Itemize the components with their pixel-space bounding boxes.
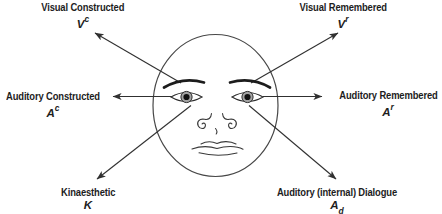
label-kinaesthetic-title: Kinaesthetic	[61, 186, 115, 198]
label-visual-constructed-title: Visual Constructed	[41, 1, 124, 13]
left-eye	[171, 91, 202, 102]
label-visual-constructed: Visual Constructed Vc	[33, 1, 133, 30]
label-auditory-constructed-abbr: Ac	[46, 103, 59, 119]
label-visual-constructed-abbr: Vc	[77, 14, 89, 30]
left-eyebrow	[164, 80, 204, 87]
arrow-kinaesthetic	[97, 106, 191, 180]
label-auditory-constructed: Auditory Constructed Ac	[0, 90, 106, 119]
eye-accessing-cues-diagram: Visual Constructed Vc Visual Remembered …	[0, 0, 442, 214]
arrow-visual-constructed	[95, 33, 181, 83]
right-eyebrow	[230, 80, 270, 87]
right-eye	[232, 91, 263, 102]
label-auditory-constructed-title: Auditory Constructed	[6, 90, 100, 102]
label-visual-remembered: Visual Remembered Vr	[291, 1, 395, 30]
label-auditory-dialogue-title: Auditory (internal) Dialogue	[277, 186, 397, 198]
arrow-auditory-dialogue	[249, 106, 336, 180]
mouth	[192, 142, 243, 156]
label-auditory-remembered: Auditory Remembered Ar	[334, 89, 442, 118]
label-kinaesthetic-abbr: K	[84, 199, 92, 211]
label-auditory-remembered-abbr: Ar	[382, 102, 394, 118]
label-kinaesthetic: Kinaesthetic K	[38, 186, 138, 211]
label-visual-remembered-abbr: Vr	[338, 14, 349, 30]
label-auditory-dialogue: Auditory (internal) Dialogue Ad	[265, 186, 409, 214]
label-auditory-remembered-title: Auditory Remembered	[339, 89, 437, 101]
nose	[198, 114, 237, 135]
arrow-visual-remembered	[251, 33, 338, 83]
label-auditory-dialogue-abbr: Ad	[330, 199, 344, 214]
label-visual-remembered-title: Visual Remembered	[299, 1, 386, 13]
